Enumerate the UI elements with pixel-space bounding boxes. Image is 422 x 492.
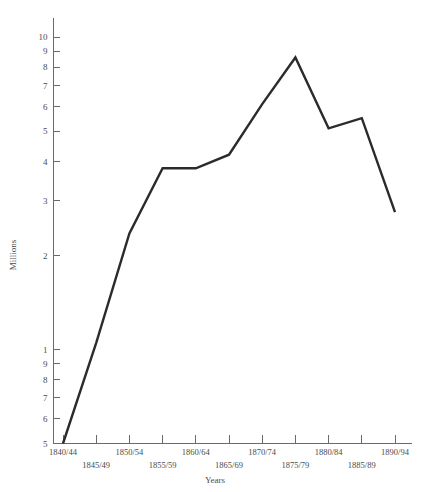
y-tick-label: 3: [43, 196, 48, 206]
y-axis: 5678912345678910: [39, 18, 60, 449]
x-tick-label: 1855/59: [149, 460, 177, 470]
y-axis-title: Millions: [8, 239, 18, 270]
y-tick-label: 4: [43, 157, 48, 167]
series-line-emigration: [63, 57, 395, 443]
y-tick-label: 9: [43, 359, 48, 369]
x-tick-label: 1875/79: [281, 460, 309, 470]
y-tick-label: 5: [43, 126, 48, 136]
x-tick-label: 1860/64: [182, 447, 211, 457]
y-tick-label: 5: [43, 439, 48, 449]
data-series-group: [63, 57, 395, 443]
line-chart-svg: 5678912345678910 1840/441845/491850/5418…: [0, 0, 422, 492]
y-tick-label: 7: [43, 81, 48, 91]
y-tick-label: 9: [43, 46, 48, 56]
y-axis-ticks: 5678912345678910: [39, 32, 60, 449]
x-axis-ticks: 1840/441845/491850/541855/591860/641865/…: [49, 435, 410, 471]
x-tick-label: 1845/49: [82, 460, 110, 470]
y-tick-label: 8: [43, 62, 48, 72]
x-tick-label: 1870/74: [248, 447, 277, 457]
x-axis-title: Years: [205, 475, 226, 485]
x-tick-label: 1880/84: [315, 447, 344, 457]
x-tick-label: 1840/44: [49, 447, 78, 457]
y-tick-label: 7: [43, 393, 48, 403]
y-tick-label: 10: [39, 32, 49, 42]
x-tick-label: 1890/94: [381, 447, 410, 457]
y-tick-label: 6: [43, 102, 48, 112]
x-axis: 1840/441845/491850/541855/591860/641865/…: [49, 435, 412, 471]
y-tick-label: 6: [43, 414, 48, 424]
y-tick-label: 1: [43, 345, 48, 355]
x-tick-label: 1885/89: [348, 460, 376, 470]
x-tick-label: 1865/69: [215, 460, 243, 470]
x-tick-label: 1850/54: [115, 447, 144, 457]
y-tick-label: 8: [43, 375, 48, 385]
chart-figure: 5678912345678910 1840/441845/491850/5418…: [0, 0, 422, 492]
y-tick-label: 2: [43, 251, 48, 261]
